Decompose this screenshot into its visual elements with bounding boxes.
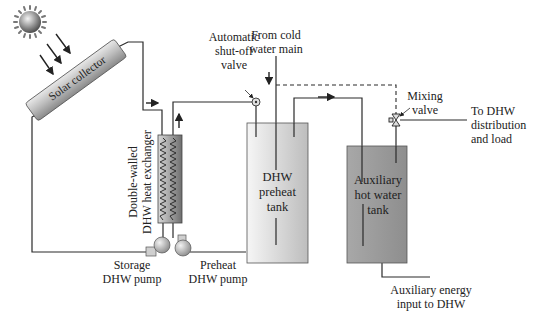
shutoff-valve-label-line3: valve [194,58,274,72]
distribution-label-line3: and load [471,132,535,146]
cold-water-label-line2: water main [244,42,308,56]
preheat-tank-label: DHW preheat tank [250,170,305,215]
cold-water-label: From cold water main [244,28,308,56]
aux-energy-label-line2: input to DHW [376,297,486,311]
preheat-tank-label-line2: preheat [250,185,305,200]
cold-water-label-line1: From cold [244,28,308,42]
preheat-pump-icon [175,235,191,256]
mixing-valve-label-line1: Mixing [400,89,450,103]
mixing-valve-label-line2: valve [400,103,450,117]
storage-pump-label-line1: Storage [96,258,168,272]
aux-energy-label: Auxiliary energy input to DHW [376,283,486,311]
heat-exchanger-label: Double-walled DHW heat exchanger [126,122,154,242]
aux-energy-label-line1: Auxiliary energy [376,283,486,297]
heat-exchanger [158,135,182,223]
preheat-pump-label: Preheat DHW pump [182,258,254,286]
distribution-label: To DHW distribution and load [471,104,535,146]
aux-tank-label-line2: hot water [349,188,407,203]
distribution-label-line2: distribution [471,118,535,132]
storage-pump-label: Storage DHW pump [96,258,168,286]
distribution-label-line1: To DHW [471,104,535,118]
shutoff-valve-icon [252,98,260,106]
storage-pump-label-line2: DHW pump [96,272,168,286]
sun-icon [14,6,46,38]
mixing-valve-icon [389,114,400,126]
heat-exchanger-label-line2: DHW heat exchanger [140,122,154,242]
aux-tank-label: Auxiliary hot water tank [349,173,407,218]
flow-arrows [146,72,334,128]
aux-tank-label-line3: tank [349,203,407,218]
sunlight-arrows-icon [40,34,70,74]
heat-exchanger-label-line1: Double-walled [126,122,140,242]
aux-tank-label-line1: Auxiliary [349,173,407,188]
mixing-valve-label: Mixing valve [400,89,450,117]
preheat-pump-label-line2: DHW pump [182,272,254,286]
preheat-tank-label-line3: tank [250,200,305,215]
preheat-tank-label-line1: DHW [250,170,305,185]
preheat-pump-label-line1: Preheat [182,258,254,272]
